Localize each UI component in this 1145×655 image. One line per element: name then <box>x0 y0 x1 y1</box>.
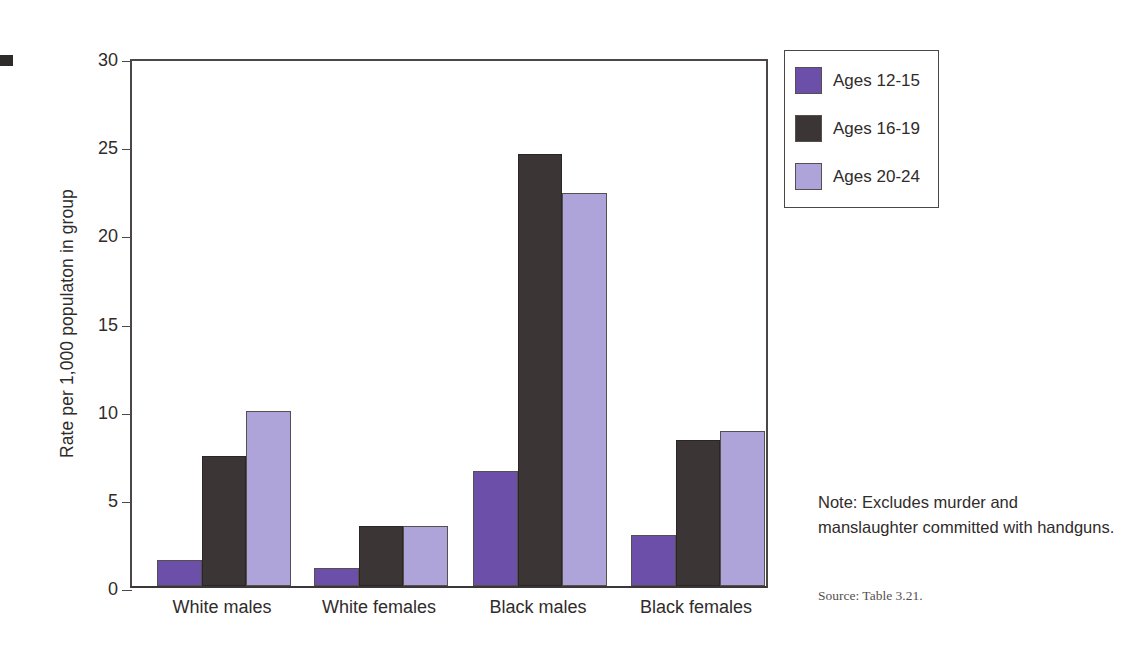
bar <box>359 526 404 586</box>
y-tick-20 <box>122 237 132 238</box>
bar-group <box>157 61 291 586</box>
legend-label: Ages 16-19 <box>833 119 920 139</box>
bar <box>314 568 359 586</box>
legend-item: Ages 16-19 <box>795 115 920 142</box>
bar <box>720 431 765 586</box>
plot-area: 051015202530 <box>130 59 768 588</box>
y-tick-10 <box>122 414 132 415</box>
x-axis-label-2: Black males <box>451 597 625 618</box>
y-tick-label-20: 20 <box>72 226 118 247</box>
y-tick-5 <box>122 502 132 503</box>
chart-note: Note: Excludes murder and manslaughter c… <box>818 490 1118 540</box>
y-tick-label-0: 0 <box>72 579 118 600</box>
x-axis-label-0: White males <box>135 597 309 618</box>
y-tick-0 <box>122 590 132 591</box>
y-tick-label-5: 5 <box>72 491 118 512</box>
legend-swatch-icon <box>795 163 822 190</box>
bar-group <box>314 61 448 586</box>
bar <box>246 411 291 586</box>
bar-group <box>473 61 607 586</box>
bar <box>473 471 518 586</box>
bar <box>157 560 202 586</box>
chart-legend: Ages 12-15Ages 16-19Ages 20-24 <box>784 50 939 208</box>
legend-item: Ages 12-15 <box>795 67 920 94</box>
y-tick-30 <box>122 61 132 62</box>
x-axis-label-3: Black females <box>609 597 783 618</box>
y-tick-label-25: 25 <box>72 138 118 159</box>
x-axis-label-1: White females <box>292 597 466 618</box>
chart-source: Source: Table 3.21. <box>818 588 1118 604</box>
bar <box>518 154 563 586</box>
legend-item: Ages 20-24 <box>795 163 920 190</box>
y-tick-label-30: 30 <box>72 50 118 71</box>
bar-chart-figure: Rate per 1,000 populaton in group 051015… <box>0 0 1145 655</box>
bar <box>631 535 676 586</box>
bar <box>202 456 247 586</box>
bar <box>562 193 607 586</box>
y-tick-15 <box>122 326 132 327</box>
bar <box>676 440 721 586</box>
legend-swatch-icon <box>795 115 822 142</box>
y-tick-label-15: 15 <box>72 315 118 336</box>
bar <box>403 526 448 586</box>
y-tick-label-10: 10 <box>72 403 118 424</box>
bar-series-layer <box>132 61 766 586</box>
bar-group <box>631 61 765 586</box>
legend-swatch-icon <box>795 67 822 94</box>
y-tick-25 <box>122 149 132 150</box>
legend-label: Ages 12-15 <box>833 71 920 91</box>
legend-label: Ages 20-24 <box>833 167 920 187</box>
